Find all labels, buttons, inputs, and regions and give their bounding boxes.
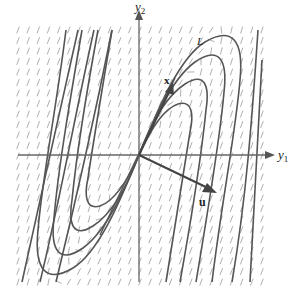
trajectory-curve — [139, 103, 192, 282]
curve-label-L: L — [197, 36, 203, 47]
u-vector-arrowhead — [202, 183, 217, 193]
y1-axis-arrowhead — [265, 151, 275, 159]
trajectory-curve — [53, 30, 139, 255]
trajectory-curve — [139, 79, 207, 282]
x-vector-label: x — [164, 75, 170, 86]
x-vector — [139, 90, 170, 155]
u-vector-label: u — [199, 196, 206, 208]
trajectory-curve — [37, 30, 139, 274]
trajectory-curve — [56, 30, 112, 282]
trajectory-curve — [232, 30, 258, 282]
y2-axis-label: y2 — [135, 0, 145, 16]
trajectory-curve — [22, 30, 78, 282]
phase-portrait — [0, 0, 292, 298]
y1-axis-label: y1 — [278, 148, 288, 164]
